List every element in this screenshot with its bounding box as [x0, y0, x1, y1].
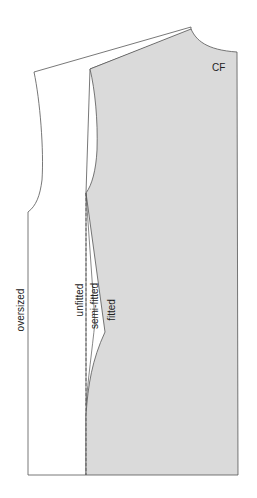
cf-label: CF — [212, 62, 225, 73]
bodice-pattern-diagram: CF oversized unfitted semi-fitted fitted — [0, 0, 257, 498]
pattern-svg: CF oversized unfitted semi-fitted fitted — [0, 0, 257, 498]
oversized-label: oversized — [15, 289, 26, 332]
semi-fitted-label: semi-fitted — [89, 283, 100, 329]
unfitted-label: unfitted — [74, 284, 85, 317]
fitted-bodice-shape — [86, 29, 238, 475]
fitted-label: fitted — [106, 299, 117, 321]
